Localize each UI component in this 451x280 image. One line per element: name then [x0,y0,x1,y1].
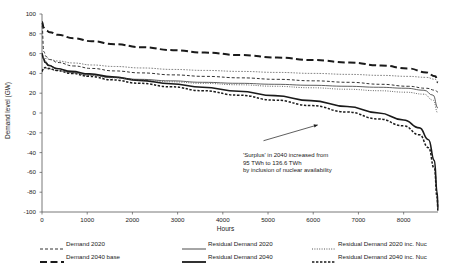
legend-swatch [312,243,336,246]
y-tick-label: 20 [14,89,36,96]
annotation-arrowhead [314,124,318,127]
annotation-line: by inclusion of nuclear availability [243,167,332,175]
x-tick-label: 4000 [203,216,243,223]
legend-swatch [40,256,64,259]
series-line [42,54,438,108]
legend-label: Residual Demand 2040 inc. Nuc [338,251,427,263]
annotation-arrow [264,125,318,141]
x-tick-label: 1000 [67,216,107,223]
legend-label: Residual Demand 2020 [208,238,273,250]
legend-item[interactable]: Demand 2040 base [40,251,120,263]
annotation-surplus: 'Surplus' in 2040 increased from95 TWh t… [243,152,332,175]
legend-label: Residual Demand 2020 inc. Nuc [338,238,427,250]
legend-item[interactable]: Residual Demand 2020 inc. Nuc [312,238,427,250]
y-tick-label: 100 [14,10,36,17]
legend-label: Demand 2020 [66,238,105,250]
x-tick-label: 2000 [112,216,152,223]
chart-root: Demand level (GW) Hours -100-80-60-40-20… [0,0,451,280]
legend-item[interactable]: Residual Demand 2020 [182,238,273,250]
y-tick-label: 80 [14,30,36,37]
series-line [42,67,438,211]
x-tick-label: 6000 [293,216,333,223]
y-tick-label: -80 [14,188,36,195]
annotation-line: 'Surplus' in 2040 increased from [243,152,332,160]
y-tick-label: 60 [14,50,36,57]
legend-item[interactable]: Residual Demand 2040 inc. Nuc [312,251,427,263]
series-line [42,54,438,209]
x-tick-label: 5000 [248,216,288,223]
legend-swatch [40,243,64,246]
y-tick-label: -20 [14,129,36,136]
legend-swatch [312,256,336,259]
series-line [42,22,438,82]
annotation-line: 95 TWh to 136.6 TWh [243,160,332,168]
legend-label: Residual Demand 2040 [208,251,273,263]
legend-label: Demand 2040 base [66,251,120,263]
x-tick-label: 0 [22,216,62,223]
x-tick-label: 8000 [384,216,424,223]
series-line [42,58,438,82]
chart-legend: Demand 2020Demand 2040 baseResidual Dema… [0,238,451,272]
legend-item[interactable]: Demand 2020 [40,238,105,250]
series-line [42,26,438,92]
y-tick-label: -40 [14,149,36,156]
x-tick-label: 3000 [158,216,198,223]
y-tick-label: 40 [14,69,36,76]
y-tick-label: -60 [14,168,36,175]
legend-swatch [182,243,206,246]
legend-swatch [182,256,206,259]
x-tick-label: 7000 [338,216,378,223]
y-tick-label: 0 [14,109,36,116]
y-tick-label: -100 [14,208,36,215]
legend-item[interactable]: Residual Demand 2040 [182,251,273,263]
